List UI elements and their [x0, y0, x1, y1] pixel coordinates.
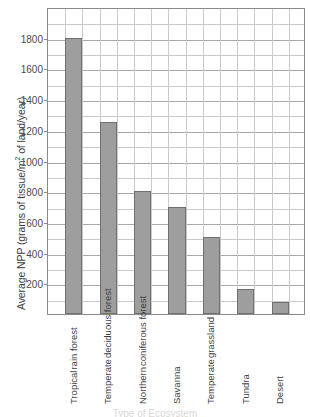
gridline-horizontal — [48, 40, 304, 41]
x-axis-tick-labels: Tropicalrain forestTemperatedeciduous fo… — [47, 316, 305, 406]
y-axis-tick-label: 1400 — [13, 95, 43, 106]
x-axis-tick-label-line: Tundra — [240, 374, 251, 404]
x-axis-tick-label-line: deciduous forest — [102, 288, 113, 358]
bar-tundra — [237, 289, 254, 314]
gridline-vertical — [117, 9, 118, 314]
gridline-horizontal — [48, 163, 304, 164]
x-axis-tick-label-line: coniferous forest — [137, 296, 148, 366]
gridline-horizontal — [48, 86, 304, 87]
bar-temperate-deciduous-forest — [100, 122, 117, 314]
x-axis-tick-label-line: rain forest — [68, 327, 79, 369]
gridline-vertical — [237, 9, 238, 314]
gridline-vertical — [272, 9, 273, 314]
bar-savanna — [168, 207, 185, 314]
gridline-horizontal — [48, 24, 304, 25]
plot-area — [47, 8, 305, 315]
gridline-horizontal — [48, 193, 304, 194]
bar-temperate-grassland — [203, 237, 220, 314]
y-axis-tick-label: 400 — [13, 248, 43, 259]
y-axis-tick-label: 1200 — [13, 125, 43, 136]
gridline-vertical — [186, 9, 187, 314]
gridline-vertical — [254, 9, 255, 314]
gridline-horizontal — [48, 147, 304, 148]
y-axis-tick-labels: 20040060080010001200140016001800 — [13, 0, 43, 417]
npp-bar-chart-figure: Average NPP (grams of tissue/m2 of land/… — [0, 0, 310, 417]
gridline-horizontal — [48, 116, 304, 117]
y-axis-tick-label: 1600 — [13, 64, 43, 75]
bar-tropical-rain-forest — [65, 38, 82, 314]
y-axis-tick-label: 1000 — [13, 156, 43, 167]
gridline-horizontal — [48, 55, 304, 56]
x-axis-tick-label-line: Desert — [274, 376, 285, 404]
x-axis-tick-label-line: Temperate — [102, 359, 113, 404]
bar-desert — [272, 302, 289, 314]
x-axis-tick-label-line: Temperate — [205, 359, 216, 404]
x-axis-tick-label-line: Northern — [137, 367, 148, 404]
x-axis-tick-label-line: grassland — [205, 317, 216, 358]
gridline-horizontal — [48, 132, 304, 133]
x-axis-tick-label-line: Tropical — [68, 371, 79, 404]
y-axis-tick-label: 1800 — [13, 33, 43, 44]
gridline-vertical — [289, 9, 290, 314]
y-axis-tick-label: 800 — [13, 187, 43, 198]
x-axis-title: Type of Ecosystem — [0, 408, 310, 417]
gridline-horizontal — [48, 70, 304, 71]
gridline-vertical — [220, 9, 221, 314]
y-axis-tick-label: 200 — [13, 279, 43, 290]
gridline-horizontal — [48, 101, 304, 102]
x-axis-tick-label-line: Savanna — [171, 366, 182, 404]
gridline-horizontal — [48, 178, 304, 179]
y-axis-tick-label: 600 — [13, 217, 43, 228]
